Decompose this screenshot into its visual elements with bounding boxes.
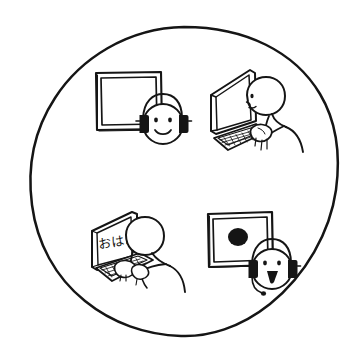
scene-top-left [96, 72, 192, 144]
scene-bottom-right [208, 212, 301, 296]
hand [251, 124, 272, 150]
screen-dot [228, 228, 248, 246]
scene-bottom-left: おはよ [92, 212, 185, 292]
illustration-canvas: Online communication doodle Four hand-dr… [0, 0, 364, 357]
scene-top-right [211, 70, 303, 152]
doodle-illustration: おはよ [0, 0, 364, 357]
